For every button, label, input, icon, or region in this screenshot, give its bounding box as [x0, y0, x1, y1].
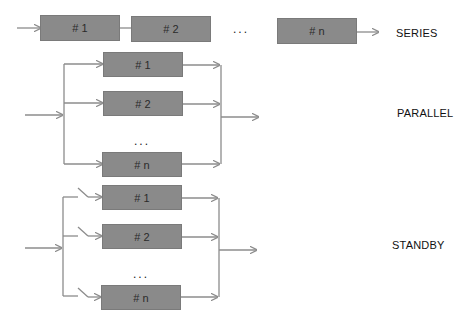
- parallel-block-1: # 1: [103, 52, 183, 77]
- block-label: # n: [309, 25, 324, 37]
- standby-label: STANDBY: [392, 239, 445, 251]
- parallel-label: PARALLEL: [397, 107, 453, 119]
- standby-ellipsis: ...: [133, 267, 149, 281]
- series-ellipsis: ...: [233, 22, 249, 36]
- standby-block-1: # 1: [102, 185, 182, 210]
- standby-block-2: # 2: [102, 224, 182, 249]
- parallel-block-n: # n: [102, 152, 182, 177]
- series-block-2: # 2: [131, 16, 211, 42]
- block-label: # 1: [135, 59, 150, 71]
- parallel-ellipsis: ...: [134, 134, 150, 148]
- series-block-n: # n: [277, 18, 357, 44]
- parallel-block-2: # 2: [103, 91, 183, 116]
- block-label: # 2: [134, 231, 149, 243]
- series-label: SERIES: [396, 27, 438, 39]
- standby-block-n: # n: [101, 285, 181, 310]
- block-label: # 2: [163, 23, 178, 35]
- block-label: # 2: [135, 98, 150, 110]
- block-label: # 1: [72, 22, 87, 34]
- series-block-1: # 1: [40, 15, 120, 41]
- block-label: # n: [134, 159, 149, 171]
- block-label: # 1: [134, 192, 149, 204]
- block-label: # n: [133, 292, 148, 304]
- connector-lines: [0, 0, 460, 323]
